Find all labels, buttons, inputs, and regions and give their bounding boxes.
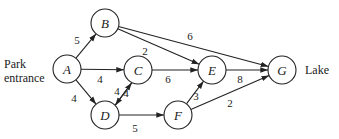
edge-weight-label: 4 xyxy=(71,92,77,104)
edge-weight-label: 4 xyxy=(114,85,120,97)
edge-line xyxy=(81,69,124,70)
edge-weight-label: 5 xyxy=(132,122,138,134)
edge-A-B: 5 xyxy=(74,34,96,58)
node-label: F xyxy=(173,108,183,123)
edge-weight-label: 4 xyxy=(97,73,103,85)
node-label: D xyxy=(99,108,110,123)
node-label: B xyxy=(101,16,109,31)
edge-weight-label: 4 xyxy=(123,87,129,99)
edge-weight-label: 6 xyxy=(165,73,171,85)
edge-A-D: 4 xyxy=(71,80,96,104)
edge-weight-label: 5 xyxy=(74,34,80,46)
node-E: E xyxy=(198,56,226,84)
edge-F-E: 3 xyxy=(186,81,203,104)
node-B: B xyxy=(91,9,119,37)
node-label: E xyxy=(207,63,216,78)
node-A: A xyxy=(53,55,81,83)
node-label: A xyxy=(62,62,71,77)
node-G: G xyxy=(268,56,296,84)
edge-weight-label: 3 xyxy=(193,90,199,102)
park-entrance-label-line2: entrance xyxy=(4,71,45,85)
lake-label: Lake xyxy=(305,63,329,77)
node-C: C xyxy=(124,56,152,84)
edge-weight-label: 2 xyxy=(142,45,148,57)
node-label: G xyxy=(277,63,287,78)
edge-A-C: 4 xyxy=(81,69,124,85)
edge-weight-label: 2 xyxy=(227,97,233,109)
network-diagram: 544266445832 ABCDEFG Park entrance Lake xyxy=(0,0,339,139)
park-entrance-label-line1: Park xyxy=(4,57,26,71)
edge-E-G: 8 xyxy=(226,70,268,85)
edge-C-E: 6 xyxy=(152,70,198,85)
edge-line xyxy=(76,80,96,104)
node-label: C xyxy=(134,63,143,78)
node-F: F xyxy=(164,101,192,129)
node-D: D xyxy=(91,101,119,129)
edge-D-F: 5 xyxy=(119,115,164,134)
edge-weight-label: 6 xyxy=(187,30,193,42)
edge-weight-label: 8 xyxy=(237,73,243,85)
